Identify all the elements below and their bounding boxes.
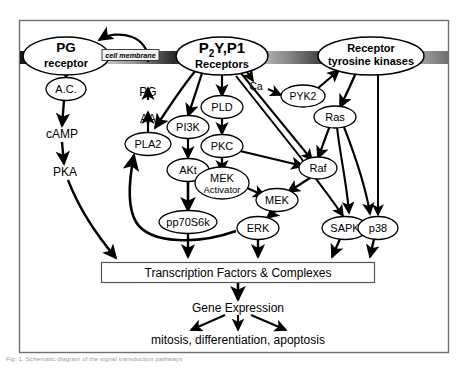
node-ca: Ca [249, 80, 263, 92]
node-erk-label: ERK [247, 222, 270, 234]
gene-expression-label: Gene Expression [192, 301, 284, 315]
membrane-receptors: PG receptor P2Y,P1 Receptors Receptor ty… [23, 37, 424, 75]
node-pg: PG [139, 85, 156, 99]
p2y-p1-receptors-line2: Receptors [195, 58, 249, 70]
figure-caption: Fig. 1. Schematic diagram of the signal … [6, 355, 306, 362]
pg-receptor-line1: PG [56, 40, 76, 55]
outcomes-label: mitosis, differentiation, apoptosis [151, 333, 325, 347]
node-pi3k-label: PI3K [176, 121, 201, 133]
node-mek-label: MEK [265, 194, 290, 206]
figure-root: PG receptor P2Y,P1 Receptors Receptor ty… [0, 0, 469, 370]
node-pkc-label: PKC [211, 140, 234, 152]
pg-receptor-line2: receptor [44, 57, 89, 69]
p2y-p1-receptors-line1: P2Y,P1 [199, 39, 245, 59]
node-pla2-label: PLA2 [135, 138, 162, 150]
node-pp70s6k-label: pp70S6k [166, 216, 210, 228]
node-pyk2-label: PYK2 [290, 90, 317, 102]
rtk-line1: Receptor [347, 42, 395, 54]
cell-membrane-label-group: cell membrane [102, 50, 159, 61]
pathway-diagram: PG receptor P2Y,P1 Receptors Receptor ty… [0, 0, 469, 370]
node-p38-label: p38 [369, 222, 387, 234]
node-aa: AA [140, 112, 156, 126]
node-mek-activator-line1: MEK [210, 172, 235, 184]
cell-membrane-label: cell membrane [105, 51, 155, 60]
node-pld-label: PLD [211, 101, 232, 113]
node-raf-label: Raf [309, 162, 327, 174]
rtk-line2: tyrosine kinases [328, 55, 414, 67]
node-akt-label: AKt [179, 164, 197, 176]
node-pka: PKA [53, 165, 77, 179]
node-sapk-label: SAPK [330, 222, 360, 234]
node-mek-activator-line2: Activator [204, 184, 241, 195]
transcription-factors-label: Transcription Factors & Complexes [145, 266, 332, 280]
node-ac-label: A.C. [55, 83, 76, 95]
node-camp: cAMP [46, 127, 78, 141]
node-ras-label: Ras [325, 111, 345, 123]
